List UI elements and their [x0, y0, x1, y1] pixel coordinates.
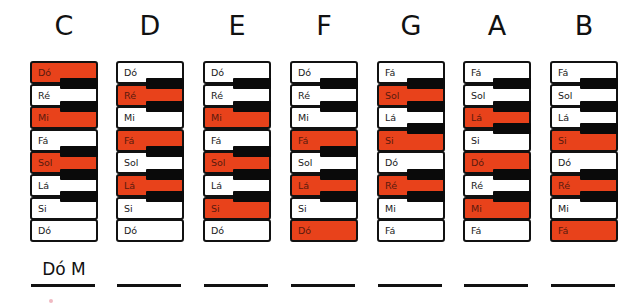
- key-label: Sol: [558, 89, 572, 102]
- black-key: [493, 123, 531, 134]
- chord-heading: C: [30, 10, 98, 42]
- key-label: Fá: [558, 66, 568, 79]
- key-label: Ré: [211, 89, 223, 102]
- key-label: Dó: [124, 66, 137, 79]
- key-label: Dó: [38, 224, 51, 237]
- black-key: [407, 191, 445, 202]
- answer-text: Dó M: [30, 258, 98, 280]
- key-label: Si: [211, 202, 220, 215]
- black-key: [60, 146, 98, 157]
- white-key: Dó: [30, 219, 98, 242]
- keyboard: DóRéMiFáSolLáSiDó: [30, 61, 98, 242]
- key-label: Si: [471, 134, 480, 147]
- key-label: Mi: [385, 202, 396, 215]
- black-key: [580, 191, 618, 202]
- key-label: Mi: [471, 202, 482, 215]
- black-key: [407, 123, 445, 134]
- key-label: Fá: [471, 224, 481, 237]
- black-key: [60, 191, 98, 202]
- black-key: [60, 101, 98, 112]
- key-label: Si: [385, 134, 394, 147]
- key-label: Fá: [385, 66, 395, 79]
- answer-field[interactable]: [377, 258, 445, 288]
- answer-underline: [551, 284, 615, 287]
- black-key: [407, 101, 445, 112]
- key-label: Si: [298, 202, 307, 215]
- key-label: Fá: [124, 134, 134, 147]
- key-label: Mi: [124, 111, 135, 124]
- black-key: [233, 169, 271, 180]
- key-label: Ré: [124, 89, 136, 102]
- black-key: [60, 78, 98, 89]
- white-key: Fá: [550, 219, 618, 242]
- answer-field[interactable]: [290, 258, 358, 288]
- black-key: [580, 169, 618, 180]
- black-key: [320, 169, 358, 180]
- white-key: Dó: [116, 219, 184, 242]
- key-label: Fá: [385, 224, 395, 237]
- key-label: Fá: [38, 134, 48, 147]
- key-label: Mi: [558, 202, 569, 215]
- key-label: Lá: [385, 111, 396, 124]
- key-label: Sol: [298, 156, 312, 169]
- key-label: Lá: [558, 111, 569, 124]
- black-key: [146, 191, 184, 202]
- black-key: [320, 78, 358, 89]
- key-label: Si: [124, 202, 133, 215]
- key-label: Dó: [211, 66, 224, 79]
- black-key: [320, 146, 358, 157]
- answer-underline: [378, 284, 442, 287]
- black-key: [580, 101, 618, 112]
- black-key: [233, 146, 271, 157]
- answer-field[interactable]: [116, 258, 184, 288]
- key-label: Dó: [558, 156, 571, 169]
- black-key: [407, 78, 445, 89]
- chord-heading: A: [463, 10, 531, 42]
- black-key: [320, 191, 358, 202]
- key-label: Ré: [38, 89, 50, 102]
- white-key: Dó: [203, 219, 271, 242]
- key-label: Dó: [298, 224, 311, 237]
- stray-mark: [49, 299, 53, 303]
- black-key: [320, 101, 358, 112]
- chord-heading: D: [116, 10, 184, 42]
- key-label: Si: [38, 202, 47, 215]
- key-label: Si: [558, 134, 567, 147]
- black-key: [493, 101, 531, 112]
- answer-underline: [291, 284, 355, 287]
- key-label: Dó: [124, 224, 137, 237]
- key-label: Sol: [211, 156, 225, 169]
- answer-field[interactable]: [550, 258, 618, 288]
- key-label: Dó: [471, 156, 484, 169]
- black-key: [60, 169, 98, 180]
- key-label: Ré: [471, 179, 483, 192]
- key-label: Sol: [471, 89, 485, 102]
- key-label: Fá: [558, 224, 568, 237]
- chord-heading: E: [203, 10, 271, 42]
- keyboard: DóRéMiFáSolLáSiDó: [116, 61, 184, 242]
- answer-underline: [204, 284, 268, 287]
- key-label: Fá: [471, 66, 481, 79]
- black-key: [493, 169, 531, 180]
- key-label: Lá: [471, 111, 482, 124]
- key-label: Lá: [124, 179, 135, 192]
- key-label: Fá: [298, 134, 308, 147]
- answer-field[interactable]: [463, 258, 531, 288]
- key-label: Dó: [298, 66, 311, 79]
- black-key: [233, 101, 271, 112]
- key-label: Dó: [38, 66, 51, 79]
- key-label: Ré: [298, 89, 310, 102]
- black-key: [146, 101, 184, 112]
- key-label: Dó: [211, 224, 224, 237]
- chord-heading: F: [290, 10, 358, 42]
- key-label: Lá: [211, 179, 222, 192]
- white-key: Dó: [290, 219, 358, 242]
- answer-field[interactable]: Dó M: [30, 258, 98, 288]
- key-label: Lá: [38, 179, 49, 192]
- answer-field[interactable]: [203, 258, 271, 288]
- black-key: [580, 78, 618, 89]
- key-label: Mi: [298, 111, 309, 124]
- black-key: [233, 78, 271, 89]
- key-label: Dó: [385, 156, 398, 169]
- white-key: Fá: [377, 219, 445, 242]
